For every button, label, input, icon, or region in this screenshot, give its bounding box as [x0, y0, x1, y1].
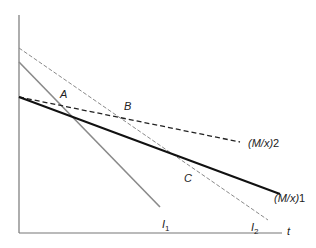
- line-label-mx1: (M/x)1: [274, 193, 305, 204]
- mx2-label-num: 2: [273, 137, 279, 149]
- line-label-mx2: (M/x)2: [248, 138, 279, 149]
- point-label-b: B: [124, 101, 131, 112]
- x-axis-label: t: [287, 226, 290, 237]
- line-i2: [19, 48, 268, 220]
- i2-label-sub: 2: [254, 227, 258, 236]
- line-label-i1: I1: [162, 219, 170, 233]
- diagram-canvas: [0, 0, 316, 248]
- point-label-c: C: [184, 173, 192, 184]
- mx2-label-main: (M/x): [248, 137, 273, 149]
- line-label-i2: I2: [251, 222, 259, 236]
- point-label-a: A: [60, 89, 67, 100]
- line-mx1: [19, 97, 280, 194]
- i1-label-sub: 1: [165, 224, 169, 233]
- mx1-label-num: 1: [299, 192, 305, 204]
- mx1-label-main: (M/x): [274, 192, 299, 204]
- line-i1: [19, 62, 160, 207]
